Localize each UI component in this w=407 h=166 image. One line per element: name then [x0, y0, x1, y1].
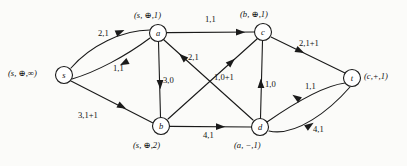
edge-label-d-t: 4,1: [313, 124, 324, 134]
node-tag-s: (s, ⊕,∞): [8, 68, 37, 78]
node-tag-a: (s, ⊕,1): [134, 10, 161, 20]
edge-line-b-d: [170, 126, 251, 127]
node-tag-b: (s, ⊕,2): [133, 140, 160, 150]
node-circle-b[interactable]: [153, 118, 170, 135]
edge-label-a-s: 1,1: [113, 63, 124, 73]
edge-label-d-a: 2,1: [188, 52, 199, 62]
edge-a-to-c: [167, 29, 254, 36]
node-circle-s[interactable]: [56, 67, 73, 84]
edge-label-a-b: 3,0: [163, 75, 174, 85]
edge-label-b-c: 1,0+1: [214, 72, 234, 82]
edge-d-to-t: [269, 87, 350, 132]
edge-line-d-a: [164, 40, 253, 120]
edge-b-to-c: [168, 39, 257, 119]
node-tag-c: (b, ⊕,1): [240, 9, 268, 19]
edge-d-to-c: [257, 41, 264, 118]
edge-label-b-d: 4,1: [203, 130, 214, 140]
edge-label-s-a: 2,1: [98, 28, 109, 38]
node-circle-d[interactable]: [252, 119, 269, 136]
node-circle-a[interactable]: [150, 25, 167, 42]
edge-d-to-a: [164, 40, 253, 120]
arrow-head-d-c: [257, 79, 264, 88]
node-tag-d: (a, −,1): [234, 140, 261, 150]
edge-label-a-c: 1,1: [205, 14, 216, 24]
node-circle-c[interactable]: [255, 24, 272, 41]
arrow-head-a-c: [236, 29, 245, 36]
arrow-head-b-d: [216, 123, 225, 130]
edge-label-s-b: 3,1+1: [78, 110, 98, 120]
graph-canvas: [0, 0, 407, 166]
node-tag-t: (c,+,1): [364, 71, 388, 81]
edge-line-a-b: [159, 42, 161, 117]
edge-label-t-d: 1,1: [305, 81, 316, 91]
edge-line-a-s: [72, 38, 150, 79]
arrow-head-s-b: [116, 101, 127, 111]
edge-label-c-t: 2,1+1: [299, 38, 319, 48]
edge-s-to-a: [71, 27, 150, 68]
edge-a-to-s: [72, 38, 150, 79]
edge-label-d-c: 1,0: [265, 79, 276, 89]
flow-network-diagram: s a c t b d (s, ⊕,∞) (s, ⊕,1) (b, ⊕,1) (…: [0, 0, 407, 166]
node-circle-t[interactable]: [344, 70, 361, 87]
edge-line-b-c: [168, 39, 257, 119]
